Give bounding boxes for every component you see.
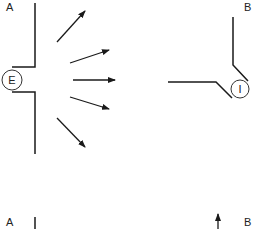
panel-b-bottom-label: B xyxy=(244,216,251,228)
arrow-4 xyxy=(70,97,109,109)
panel-b-label: B xyxy=(244,1,251,13)
wall-b-lower xyxy=(168,82,232,98)
panel-b-bottom: B xyxy=(218,214,251,229)
wall-b-upper xyxy=(233,17,248,81)
arrow-5 xyxy=(57,118,85,147)
panel-a-bottom: A xyxy=(6,216,35,229)
arrow-1 xyxy=(57,11,85,42)
diagram-canvas: A E B I A B xyxy=(0,0,262,229)
panel-a-top: A E xyxy=(2,1,115,154)
panel-b-top: B I xyxy=(168,1,251,98)
panel-a-bottom-label: A xyxy=(6,216,14,228)
circle-i-label: I xyxy=(238,83,241,95)
panel-a-label: A xyxy=(6,1,14,13)
arrow-2 xyxy=(70,50,109,63)
circle-e-label: E xyxy=(8,74,15,86)
